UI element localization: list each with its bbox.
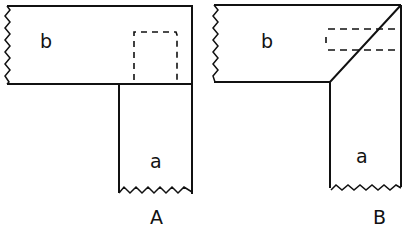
label-a-figure-b: a [356, 145, 368, 167]
caption-figure-a: A [150, 206, 163, 228]
zigzag-break-b-a [5, 6, 10, 84]
zigzag-break-b-b [213, 5, 218, 82]
tenon-dashed-outline [134, 32, 177, 80]
wavy-break-a-b [331, 185, 401, 190]
joint-diagram: b a A b a B [0, 0, 410, 230]
piece-b-outline-a [7, 6, 192, 84]
piece-a-outline-a [119, 84, 192, 194]
label-b-figure-b: b [261, 30, 273, 52]
piece-b-outline-b [214, 5, 401, 82]
figure-a [5, 6, 192, 194]
caption-figure-b: B [373, 206, 386, 228]
figure-b [213, 5, 401, 190]
wavy-break-a-a [119, 187, 192, 193]
label-a-figure-a: a [150, 150, 162, 172]
label-b-figure-a: b [40, 30, 52, 52]
